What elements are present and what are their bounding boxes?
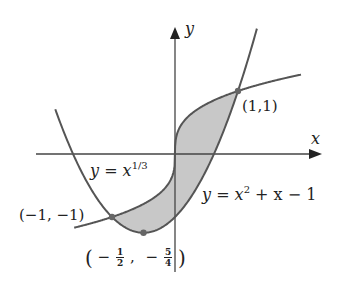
vertex-sign-2: −	[146, 248, 159, 266]
vertex-open-paren: (	[85, 246, 93, 270]
vertex-label: ( − 1 2 , − 5 4 )	[85, 247, 186, 268]
parabola-vertex-point	[140, 230, 146, 236]
vertex-close-paren: )	[178, 246, 186, 270]
region-diagram	[0, 0, 337, 286]
x-axis-arrow-icon	[309, 149, 322, 159]
intersection-point-1-1	[235, 88, 241, 94]
vertex-sign-1: −	[98, 248, 111, 266]
y-axis-arrow-icon	[170, 27, 180, 39]
parabola-equation-label: y = x2 + x − 1	[202, 187, 316, 203]
cube-root-equation-label: y = x1/3	[90, 163, 148, 179]
y-axis-label: y	[185, 21, 194, 37]
point-label-neg1-neg1: (−1, −1)	[19, 208, 84, 223]
vertex-separator: ,	[130, 248, 135, 266]
intersection-point-neg1-neg1	[109, 214, 115, 220]
point-label-1-1: (1,1)	[242, 99, 278, 114]
x-axis-label: x	[311, 131, 320, 147]
vertex-x-fraction: 1 2	[116, 247, 124, 268]
vertex-y-fraction: 5 4	[164, 247, 172, 268]
